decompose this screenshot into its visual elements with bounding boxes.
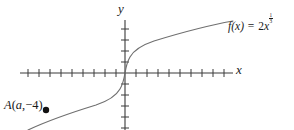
- point-name: A: [4, 98, 12, 112]
- point-y-value: −4: [25, 98, 38, 112]
- y-axis-label: y: [118, 1, 124, 17]
- x-axis-group: [20, 69, 233, 77]
- exponent-denominator: 3: [269, 19, 273, 24]
- point-label-a: A(a,−4): [4, 98, 43, 113]
- point-close-paren: ): [39, 98, 43, 112]
- equals-sign: =: [244, 20, 258, 32]
- function-name: f(x): [228, 20, 244, 32]
- x-axis-label: x: [236, 62, 242, 78]
- function-graph-figure: y x f(x) = 2x13 A(a,−4): [0, 0, 294, 130]
- point-marker-a: [43, 107, 49, 113]
- function-equation-label: f(x) = 2x13: [228, 15, 273, 32]
- exponent-fraction: 13: [269, 13, 273, 24]
